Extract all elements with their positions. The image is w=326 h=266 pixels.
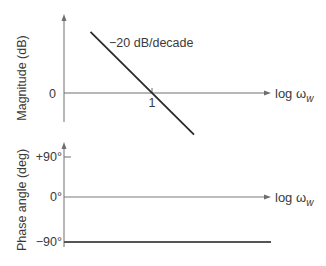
phase-xlabel-main: log ω [275, 190, 306, 205]
phase-x-arrow [264, 195, 271, 200]
phase-tick-label-0: 0° [50, 190, 62, 204]
magnitude-y-tick-label-0: 0 [49, 87, 56, 101]
slope-annotation: −20 dB/decade [109, 36, 193, 50]
bode-plot: Magnitude (dB) 0 1 −20 dB/decade log ωw … [0, 0, 326, 266]
magnitude-x-tick-label-1: 1 [149, 96, 156, 110]
phase-tick-label-plus90: +90° [36, 150, 62, 164]
phase-xlabel: log ωw [275, 190, 314, 208]
phase-tick-label-minus90: −90° [36, 235, 62, 249]
magnitude-xlabel-main: log ω [275, 86, 306, 101]
magnitude-ylabel: Magnitude (dB) [15, 35, 29, 120]
phase-ylabel: Phase angle (deg) [15, 149, 29, 251]
magnitude-xlabel: log ωw [275, 86, 314, 104]
magnitude-xlabel-subscript: w [306, 93, 314, 104]
magnitude-y-arrow [62, 14, 67, 21]
magnitude-panel: Magnitude (dB) 0 1 −20 dB/decade log ωw [15, 14, 314, 135]
magnitude-x-arrow [264, 91, 271, 96]
phase-xlabel-subscript: w [306, 197, 314, 208]
phase-y-arrow [62, 142, 67, 149]
phase-panel: Phase angle (deg) +90° 0° −90° log ωw [15, 142, 314, 251]
